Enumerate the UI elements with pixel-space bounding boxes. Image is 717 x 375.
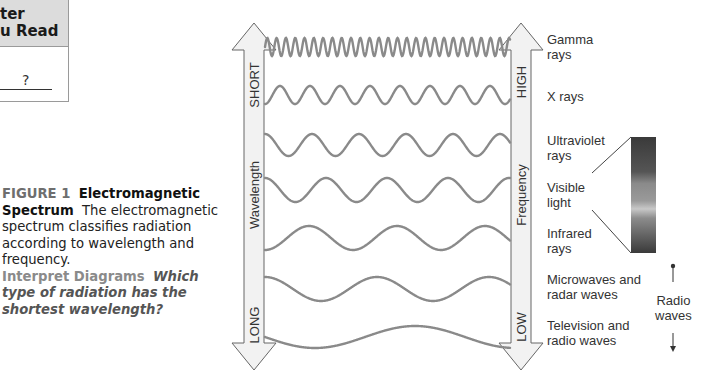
visible-spectrum-bar [631,137,656,253]
wave-microwave [265,277,510,301]
wave-gamma [265,38,510,56]
band-gamma: Gamma rays [547,32,593,62]
wave-infrared [265,226,510,250]
low-label: LOW [514,312,529,342]
wave-xray [265,86,510,104]
long-label: LONG [247,307,262,344]
waves [265,38,510,348]
frequency-label: Frequency [514,164,529,225]
short-label: SHORT [247,62,262,107]
band-visible: Visible light [547,180,585,210]
wave-visible [265,178,510,202]
band-microwave: Microwaves and radar waves [547,272,641,302]
wave-radio [265,326,510,348]
band-ultraviolet: Ultraviolet rays [547,133,605,163]
wave-ultraviolet [265,134,510,156]
wavelength-label: Wavelength [247,161,262,229]
radio-waves-group-label: Radio waves [655,293,692,323]
high-label: HIGH [514,66,529,99]
band-infrared: Infrared rays [547,226,592,256]
band-radio-tv: Television and radio waves [547,318,629,348]
band-xray: X rays [547,89,584,104]
